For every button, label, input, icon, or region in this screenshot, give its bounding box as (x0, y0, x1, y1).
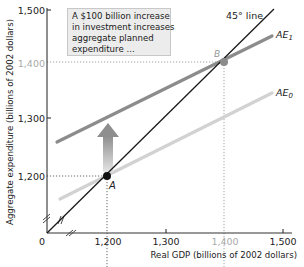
ae1-label: AE1 (275, 29, 293, 42)
x-tick-label: 1,500 (269, 236, 296, 247)
y-tick-label: 1,400 (18, 58, 45, 69)
x-tick-labels: 0 1,200 1,300 1,400 1,500 (39, 236, 297, 247)
guide-lines (47, 62, 224, 267)
y-tick-label: 1,300 (18, 113, 45, 124)
callout-line: A $100 billion increase (72, 11, 166, 22)
x-tick-label: 1,200 (94, 236, 121, 247)
point-b (220, 58, 228, 66)
ae0-label: AE0 (275, 87, 294, 100)
ae1-label-sub: 1 (289, 34, 293, 42)
origin-label: 0 (39, 236, 45, 247)
callout-line: expenditure ... (72, 44, 166, 55)
callout-box: A $100 billion increase in investment in… (67, 8, 171, 56)
point-a (103, 172, 111, 180)
point-b-label: B (214, 49, 220, 59)
callout-line: aggregate planned (72, 33, 166, 44)
x-axis-title: Real GDP (billions of 2002 dollars) (151, 250, 297, 260)
x-tick-label: 1,300 (152, 236, 179, 247)
x-tick-label: 1,400 (211, 236, 238, 247)
callout-line: in investment increases (72, 22, 166, 33)
y-axis-title: Aggregate expenditure (billions of 2002 … (5, 19, 15, 225)
y-tick-label: 1,200 (18, 171, 45, 182)
y-tick-label: 1,500 (18, 5, 45, 16)
ae1-label-main: AE (275, 29, 289, 40)
line45-label: 45° line (226, 10, 263, 21)
ae0-line (60, 93, 272, 199)
point-a-label: A (108, 180, 116, 191)
ae0-label-main: AE (275, 87, 289, 98)
y-tick-labels: 1,500 1,400 1,300 1,200 (18, 5, 45, 182)
ae0-label-sub: 0 (289, 92, 294, 100)
